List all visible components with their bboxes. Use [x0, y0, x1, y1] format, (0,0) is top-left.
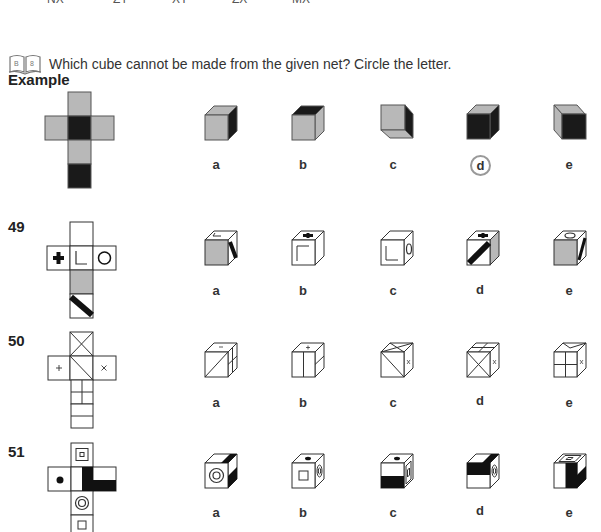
question-49-net	[47, 221, 119, 321]
option-letter-d-circled[interactable]: d	[470, 155, 491, 176]
svg-text:8: 8	[30, 60, 34, 67]
example-net	[44, 91, 119, 191]
option-letter-c: c	[383, 157, 403, 172]
q49-option-b-cube[interactable]	[291, 230, 331, 270]
q51-option-e-cube[interactable]	[553, 453, 593, 493]
option-letter-e[interactable]: e	[559, 505, 579, 520]
option-letter-e[interactable]: e	[559, 395, 579, 410]
question-number-51: 51	[8, 443, 25, 460]
question-number-49: 49	[8, 218, 25, 235]
option-letter-a: a	[206, 157, 226, 172]
option-letter-c[interactable]: c	[383, 395, 403, 410]
option-letter-b[interactable]: b	[293, 283, 313, 298]
q49-option-c-cube[interactable]	[380, 230, 420, 270]
example-option-b-cube[interactable]	[291, 105, 331, 145]
cut-off-option: MX	[292, 0, 310, 6]
q50-option-e-cube[interactable]	[553, 342, 593, 382]
option-letter-c[interactable]: c	[383, 283, 403, 298]
example-option-e-cube[interactable]	[553, 104, 593, 144]
question-number-50: 50	[8, 332, 25, 349]
option-letter-b[interactable]: b	[293, 395, 313, 410]
option-letter-b: b	[293, 157, 313, 172]
q50-option-b-cube[interactable]	[291, 342, 331, 382]
question-51-net	[48, 442, 120, 532]
option-letter-e: e	[559, 157, 579, 172]
cut-off-option: ZY	[113, 0, 128, 6]
q50-option-d-cube[interactable]	[466, 342, 506, 382]
cut-off-option: ZX	[232, 0, 247, 6]
q50-option-a-cube[interactable]	[204, 342, 244, 382]
option-letter-d[interactable]: d	[470, 282, 490, 297]
instruction: B 8 Which cube cannot be made from the g…	[8, 53, 451, 75]
option-letter-a[interactable]: a	[206, 505, 226, 520]
svg-text:B: B	[14, 60, 19, 67]
q49-option-e-cube[interactable]	[553, 230, 593, 270]
instruction-text: Which cube cannot be made from the given…	[49, 56, 451, 72]
q49-option-a-cube[interactable]	[204, 230, 244, 270]
option-letter-a[interactable]: a	[206, 395, 226, 410]
option-letter-d[interactable]: d	[470, 503, 490, 518]
example-option-d-cube[interactable]	[466, 104, 506, 144]
question-50-net	[48, 331, 120, 441]
q49-option-d-cube[interactable]	[466, 230, 506, 270]
option-letter-a[interactable]: a	[206, 283, 226, 298]
cut-off-option: XY	[172, 0, 188, 6]
q50-option-c-cube[interactable]	[380, 342, 420, 382]
q51-option-d-cube[interactable]	[466, 453, 506, 493]
example-option-a-cube[interactable]	[204, 105, 244, 145]
q51-option-c-cube[interactable]	[380, 453, 420, 493]
cut-off-answer-row: NX ZY XY ZX MX	[0, 0, 601, 4]
cut-off-option: NX	[47, 0, 64, 6]
option-letter-d[interactable]: d	[470, 393, 490, 408]
q51-option-b-cube[interactable]	[291, 453, 331, 493]
option-letter-c[interactable]: c	[383, 505, 403, 520]
option-letter-b[interactable]: b	[293, 505, 313, 520]
option-letter-e[interactable]: e	[559, 283, 579, 298]
example-label: Example	[8, 71, 70, 88]
example-option-c-cube[interactable]	[380, 104, 420, 144]
q51-option-a-cube[interactable]	[204, 453, 244, 493]
